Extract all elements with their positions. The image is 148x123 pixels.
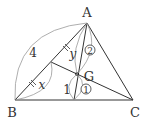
segment-one-label: 1 (63, 83, 71, 97)
var-y-label: y (69, 47, 77, 61)
centroid-label: G (84, 69, 94, 84)
ratio-2-label: 2 (87, 46, 93, 56)
centroid-diagram: 2 1 A B C G 4 y x 1 (0, 0, 148, 123)
vertex-a-label: A (81, 5, 92, 20)
triangle-abc (15, 23, 133, 100)
var-x-label: x (39, 78, 46, 92)
vertex-b-label: B (7, 105, 17, 120)
vertex-c-label: C (130, 105, 140, 120)
ratio-1-label: 1 (83, 85, 89, 95)
diagram-canvas: 2 1 A B C G 4 y x 1 (0, 0, 148, 123)
side-ab-length: 4 (29, 46, 37, 60)
